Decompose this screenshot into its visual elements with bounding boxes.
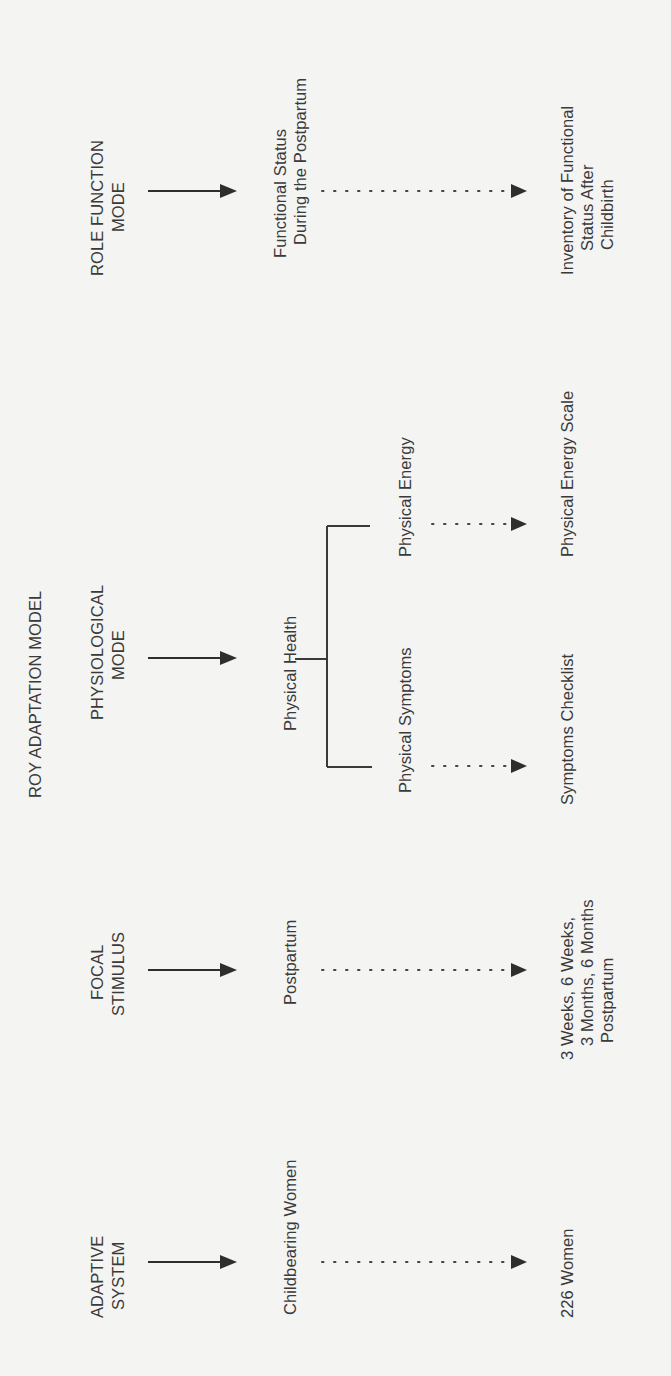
dotted-arrow-physical-symptoms (432, 759, 527, 773)
dotted-arrow-physical-energy (432, 517, 527, 531)
solid-arrow-adaptive (148, 1255, 237, 1269)
roy-adaptation-model-diagram: ROY ADAPTATION MODEL ADAPTIVE SYSTEM Chi… (0, 0, 671, 1376)
physical-health-bracket (295, 526, 372, 767)
dotted-arrow-adaptive (322, 1255, 527, 1269)
dotted-arrow-focal (322, 963, 527, 977)
solid-arrow-focal (148, 963, 237, 977)
solid-arrow-role-function (148, 184, 237, 198)
dotted-arrow-role-function (322, 184, 527, 198)
connectors-layer (0, 0, 671, 1376)
solid-arrow-physiological (148, 651, 237, 665)
